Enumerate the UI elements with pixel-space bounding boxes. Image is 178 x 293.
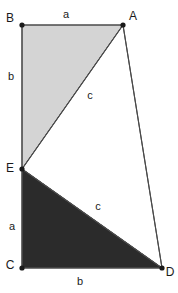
figure-canvas — [0, 0, 178, 293]
vertex-label-B: B — [6, 12, 14, 24]
vertex-dot-D — [159, 265, 164, 270]
label-side-a-left: a — [9, 221, 15, 232]
vertex-label-D: D — [166, 266, 175, 278]
label-side-b-bottom: b — [77, 276, 83, 287]
vertex-dot-B — [19, 22, 24, 27]
geometry-figure: B A E C D a b c c a b — [0, 0, 178, 293]
label-side-c-lower: c — [95, 201, 101, 212]
vertex-dot-C — [19, 265, 24, 270]
label-side-c-upper: c — [87, 90, 93, 101]
label-side-a-top: a — [63, 9, 69, 20]
label-side-b-left: b — [8, 71, 14, 82]
vertex-label-C: C — [6, 259, 15, 271]
vertex-dot-E — [19, 166, 24, 171]
vertex-label-A: A — [129, 10, 137, 22]
vertex-dot-A — [120, 22, 125, 27]
vertex-label-E: E — [6, 162, 14, 174]
